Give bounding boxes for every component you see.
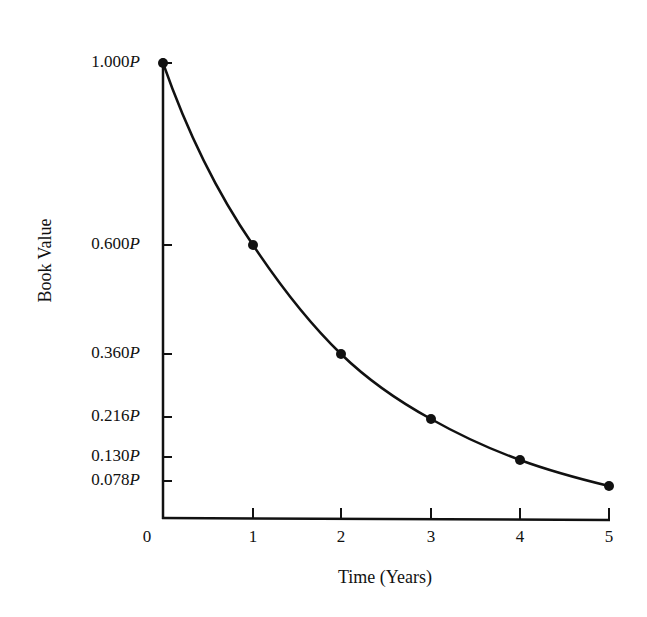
data-point	[426, 414, 436, 424]
y-tick-label: 0.360P	[20, 343, 140, 363]
data-point	[248, 240, 258, 250]
x-tick-label: 3	[421, 527, 441, 547]
data-points	[158, 58, 614, 491]
book-value-curve	[163, 63, 609, 486]
x-tick-label: 2	[331, 527, 351, 547]
x-tick-label: 4	[510, 527, 530, 547]
y-axis-title: Book Value	[35, 196, 56, 326]
y-tick-label: 0.216P	[20, 406, 140, 426]
data-point	[515, 455, 525, 465]
y-ticks	[163, 63, 172, 481]
x-axis-title: Time (Years)	[300, 567, 470, 588]
chart-plot	[0, 0, 647, 617]
y-tick-label: 0.078P	[20, 470, 140, 490]
y-tick-label: 0.130P	[20, 446, 140, 466]
x-tick-label: 0	[137, 527, 157, 547]
x-axis	[162, 518, 610, 520]
x-tick-label: 5	[599, 527, 619, 547]
x-tick-label: 1	[243, 527, 263, 547]
y-tick-label: 1.000P	[20, 52, 140, 72]
data-point	[336, 349, 346, 359]
data-point	[158, 58, 168, 68]
data-point	[604, 481, 614, 491]
